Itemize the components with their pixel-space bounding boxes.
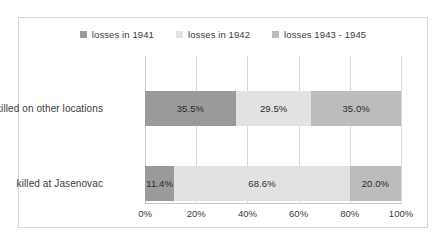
- x-axis-tick-label: 0%: [138, 208, 152, 219]
- bar-segment-value-label: 11.4%: [146, 178, 173, 189]
- plot-area: 35.5%29.5%35.0% 11.4%68.6%20.0%: [145, 56, 401, 204]
- bar-segment[interactable]: 11.4%: [145, 166, 174, 201]
- bar-row: 35.5%29.5%35.0%: [145, 91, 401, 126]
- x-axis-tick-label: 80%: [340, 208, 359, 219]
- x-axis-line: [145, 203, 401, 204]
- legend-swatch-icon: [272, 31, 279, 38]
- chart-legend: losses in 1941 losses in 1942 losses 194…: [19, 29, 427, 40]
- x-axis-tick-label: 20%: [187, 208, 206, 219]
- category-label-killed-at-jasenovac: killed at Jasenovac: [0, 178, 103, 189]
- bar-segment[interactable]: 35.5%: [145, 91, 236, 126]
- legend-item-losses-1942[interactable]: losses in 1942: [176, 29, 250, 40]
- category-label-killed-on-other-locations: killed on other locations: [0, 103, 103, 114]
- x-axis-tick-label: 100%: [389, 208, 413, 219]
- legend-swatch-icon: [176, 31, 183, 38]
- chart-container: losses in 1941 losses in 1942 losses 194…: [18, 17, 428, 228]
- gridline: [401, 56, 402, 204]
- bar-segment-value-label: 20.0%: [362, 178, 389, 189]
- x-axis-tick-label: 60%: [289, 208, 308, 219]
- legend-item-label: losses in 1941: [92, 29, 154, 40]
- bar-segment[interactable]: 35.0%: [311, 91, 401, 126]
- bar-segment-value-label: 29.5%: [260, 103, 287, 114]
- bar-segment-value-label: 35.0%: [342, 103, 369, 114]
- legend-item-label: losses 1943 - 1945: [284, 29, 366, 40]
- legend-item-losses-1941[interactable]: losses in 1941: [80, 29, 154, 40]
- bar-segment-value-label: 68.6%: [248, 178, 275, 189]
- bar-segment[interactable]: 29.5%: [236, 91, 312, 126]
- legend-item-label: losses in 1942: [188, 29, 250, 40]
- x-axis-tick-label: 40%: [238, 208, 257, 219]
- bar-segment[interactable]: 20.0%: [350, 166, 401, 201]
- legend-item-losses-1943-1945[interactable]: losses 1943 - 1945: [272, 29, 366, 40]
- legend-swatch-icon: [80, 31, 87, 38]
- bar-row: 11.4%68.6%20.0%: [145, 166, 401, 201]
- x-axis-tick-labels: 0%20%40%60%80%100%: [145, 208, 401, 224]
- bar-segment-value-label: 35.5%: [177, 103, 204, 114]
- bar-segment[interactable]: 68.6%: [174, 166, 350, 201]
